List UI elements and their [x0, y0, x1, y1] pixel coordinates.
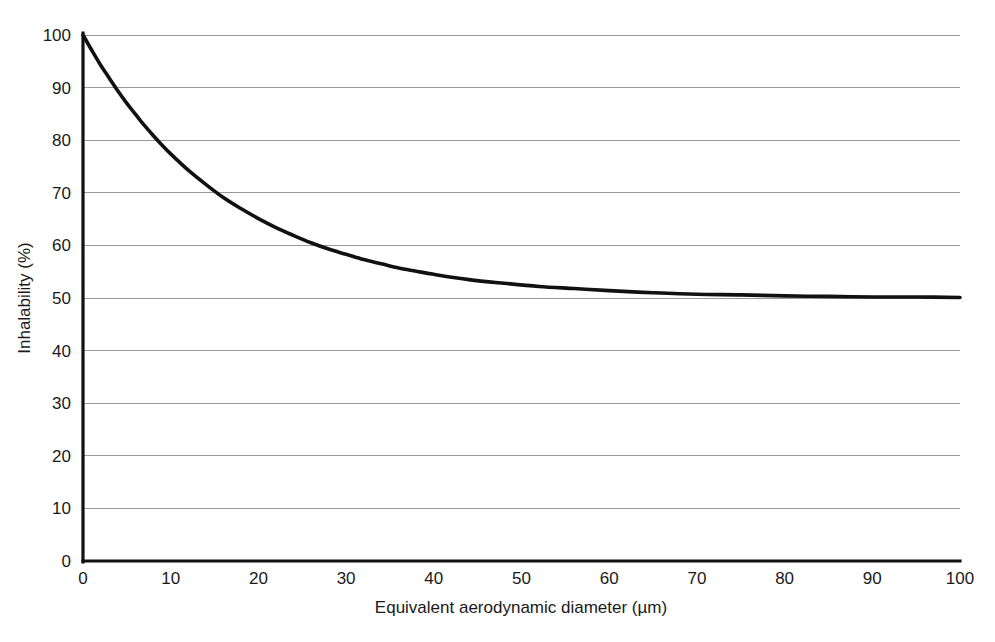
y-tick-label-10: 10: [52, 499, 71, 518]
x-tick-label-0: 0: [78, 569, 87, 588]
y-tick-label-40: 40: [52, 342, 71, 361]
y-tick-label-0: 0: [62, 552, 71, 571]
x-tick-label-30: 30: [337, 569, 356, 588]
y-tick-label-70: 70: [52, 184, 71, 203]
x-tick-label-40: 40: [424, 569, 443, 588]
inhalability-line-chart: 0102030405060708090100 01020304050607080…: [0, 0, 995, 642]
y-tick-label-30: 30: [52, 394, 71, 413]
chart-background: [0, 0, 995, 642]
x-tick-label-10: 10: [161, 569, 180, 588]
x-tick-label-80: 80: [775, 569, 794, 588]
y-tick-label-90: 90: [52, 79, 71, 98]
y-axis-title: Inhalability (%): [15, 242, 34, 354]
x-tick-label-70: 70: [687, 569, 706, 588]
y-tick-label-50: 50: [52, 289, 71, 308]
x-tick-label-20: 20: [249, 569, 268, 588]
y-tick-label-100: 100: [43, 26, 71, 45]
x-tick-label-60: 60: [600, 569, 619, 588]
y-tick-label-80: 80: [52, 131, 71, 150]
chart-figure: 0102030405060708090100 01020304050607080…: [0, 0, 995, 642]
x-tick-label-90: 90: [863, 569, 882, 588]
y-tick-label-20: 20: [52, 447, 71, 466]
x-axis-title: Equivalent aerodynamic diameter (µm): [375, 598, 667, 617]
y-tick-label-60: 60: [52, 236, 71, 255]
x-tick-label-100: 100: [946, 569, 974, 588]
x-tick-label-50: 50: [512, 569, 531, 588]
